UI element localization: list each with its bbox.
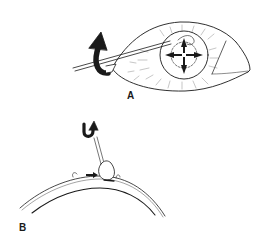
four-way-arrows-icon — [165, 38, 203, 74]
figure: A B — [0, 0, 272, 241]
globe-cross-section — [20, 173, 165, 217]
figure-svg — [0, 0, 272, 241]
rotate-arrow-icon — [89, 32, 116, 73]
panel-label-a: A — [127, 90, 134, 101]
panel-label-b: B — [19, 222, 26, 233]
swab-icon-b — [94, 137, 114, 181]
u-turn-arrow-icon — [84, 121, 98, 136]
swab-icon-a — [73, 41, 171, 71]
panel-a-eye — [112, 22, 250, 91]
